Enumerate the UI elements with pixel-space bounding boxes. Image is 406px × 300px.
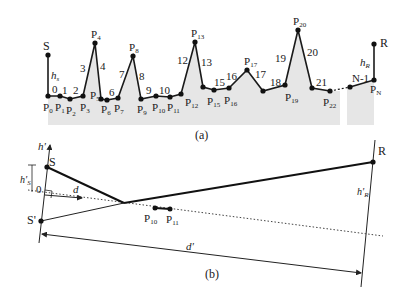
s-label: S [49, 155, 56, 169]
point-p11 [168, 207, 173, 212]
s-prime-label: S' [27, 213, 36, 227]
svg-text:17: 17 [255, 68, 267, 80]
svg-text:12: 12 [177, 54, 188, 66]
p10-label: P10 [144, 212, 158, 226]
d-arrow [45, 195, 82, 198]
svg-text:P8: P8 [129, 41, 139, 55]
reference-line [28, 190, 383, 236]
svg-text:20: 20 [307, 46, 319, 58]
panel-b: h' h'S 0 d P10 P11 S S' R h'R [20, 140, 386, 287]
ray-image-source [41, 203, 124, 221]
svg-text:2: 2 [73, 84, 79, 96]
terrain-profile-diagram: S R hs hR P0 P1 P2 P3 P4 P5 P6 P7 P8 P9 … [0, 0, 406, 300]
hr-prime-label: h'R [357, 186, 369, 199]
svg-text:8: 8 [139, 70, 145, 82]
source-height-label: hs [51, 69, 60, 83]
svg-text:P4: P4 [91, 28, 101, 42]
ray-reflection-to-r [124, 162, 373, 203]
svg-text:15: 15 [214, 76, 226, 88]
svg-text:1: 1 [62, 84, 68, 96]
svg-text:P17: P17 [244, 55, 258, 69]
svg-text:3: 3 [80, 62, 86, 74]
svg-text:0: 0 [52, 83, 58, 95]
hs-prime-label: h'S [20, 174, 31, 187]
svg-text:4: 4 [100, 60, 106, 72]
receiver-height-label: hR [360, 56, 371, 70]
d-prime-label: d' [186, 240, 195, 252]
svg-text:18: 18 [270, 76, 282, 88]
svg-text:16: 16 [226, 70, 238, 82]
d-prime-arrow [42, 234, 361, 273]
h-prime-axis-label: h' [38, 140, 47, 152]
svg-text:P13: P13 [191, 27, 205, 41]
d-label: d [73, 183, 79, 195]
panel-a: S R hs hR P0 P1 P2 P3 P4 P5 P6 P7 P8 P9 … [43, 15, 388, 142]
svg-text:21: 21 [316, 76, 327, 88]
p11-label: P11 [166, 213, 179, 227]
svg-text:19: 19 [275, 52, 287, 64]
svg-text:N-1: N-1 [352, 72, 369, 84]
svg-text:13: 13 [201, 56, 213, 68]
panel-b-caption: (b) [205, 267, 219, 281]
point-p10 [153, 206, 158, 211]
panel-a-caption: (a) [195, 128, 208, 142]
ray-s-to-reflection [47, 167, 124, 203]
svg-text:10: 10 [159, 84, 171, 96]
source-label: S [43, 39, 50, 53]
svg-text:7: 7 [119, 68, 125, 80]
svg-text:9: 9 [146, 84, 152, 96]
right-angle-mark [45, 190, 52, 198]
svg-text:PN: PN [370, 83, 381, 97]
point-r [370, 159, 375, 164]
svg-text:6: 6 [109, 86, 115, 98]
svg-text:P20: P20 [293, 15, 307, 29]
origin-label: 0 [36, 183, 42, 195]
r-label: R [378, 144, 386, 158]
receiver-label: R [380, 36, 388, 50]
point-s-prime [38, 218, 43, 223]
